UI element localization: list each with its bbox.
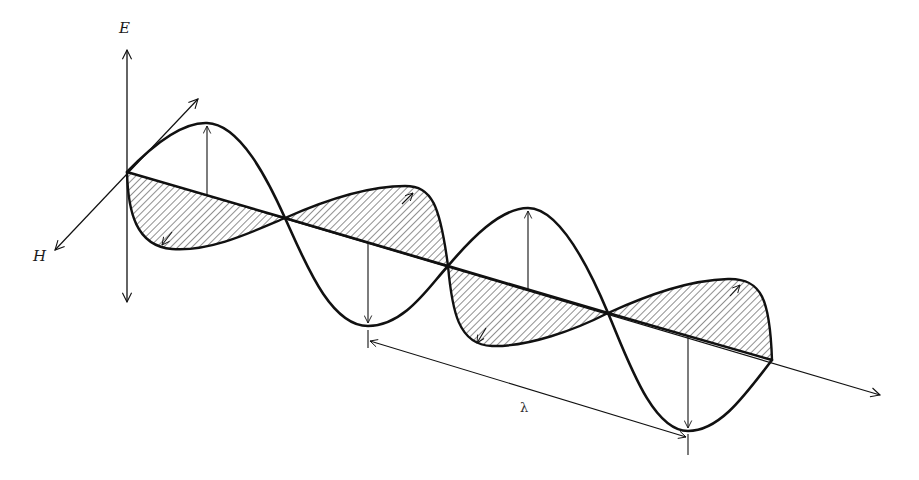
lambda-arrow xyxy=(370,341,686,437)
wavelength-dimension: λ xyxy=(368,330,688,455)
em-wave-diagram: λ E H xyxy=(0,0,919,480)
h-axis-label: H xyxy=(32,247,47,265)
h-lobe-4 xyxy=(608,279,772,360)
propagation-axis xyxy=(127,172,880,395)
h-lobe-1 xyxy=(127,172,285,249)
e-axis-label: E xyxy=(118,19,130,37)
lambda-label: λ xyxy=(520,400,528,415)
